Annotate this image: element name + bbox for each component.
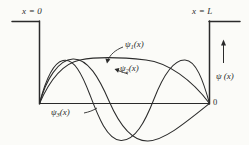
baseline-zero-label: 0	[213, 98, 217, 107]
psi3-leader-line	[84, 108, 97, 113]
amplitude-axis-label: ψ (x)	[216, 72, 234, 81]
amplitude-axis-arrow	[221, 40, 226, 64]
psi1-argument: (x)	[134, 39, 144, 49]
psi2-argument: (x)	[129, 63, 139, 73]
psi3-label: ψ3(x)	[51, 108, 70, 119]
particle-in-a-box-figure: x = 0 x = L ψ1(x) ψ2(x) ψ3(x) ψ (x) 0	[0, 0, 249, 145]
psi1-leader-arrowhead	[105, 59, 110, 64]
psi1-label: ψ1(x)	[125, 40, 144, 51]
left-wall-label: x = 0	[22, 7, 42, 16]
right-wall-label: x = L	[192, 7, 213, 16]
psi2-label: ψ2(x)	[120, 64, 139, 75]
psi2-leader-arrowhead	[115, 68, 120, 73]
psi3-argument: (x)	[60, 107, 70, 117]
